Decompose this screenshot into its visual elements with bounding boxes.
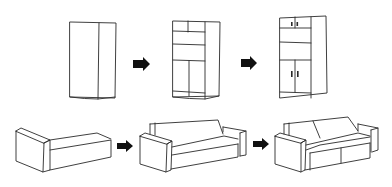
- wardrobe-stage-2: [173, 21, 220, 99]
- wardrobe-stage-3: [280, 16, 327, 98]
- furniture-progression-diagram: [0, 0, 392, 187]
- sofa-stage-1: [16, 128, 111, 172]
- sofa-stage-3: [275, 117, 378, 172]
- wardrobe-stage-1: [70, 22, 116, 99]
- right-arrow-icon: [133, 57, 150, 71]
- right-arrow-icon: [253, 138, 269, 150]
- right-arrow-icon: [117, 140, 133, 152]
- sofa-stage-2: [140, 120, 246, 172]
- right-arrow-icon: [241, 56, 257, 70]
